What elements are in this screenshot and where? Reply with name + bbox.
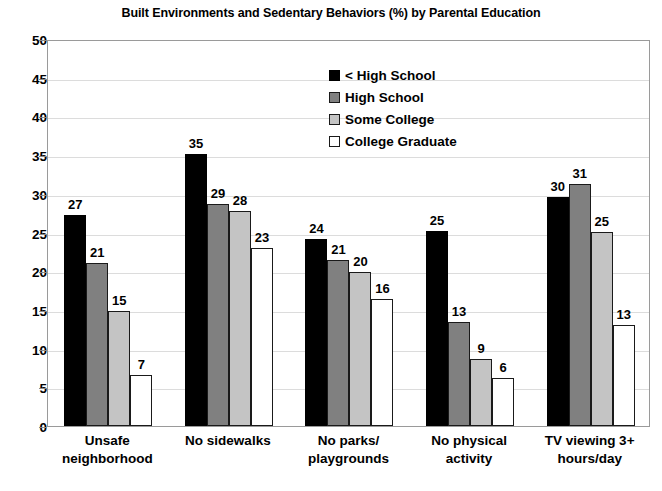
y-axis-tick-mark (39, 427, 47, 428)
bar[interactable] (426, 231, 448, 426)
bar[interactable] (470, 359, 492, 426)
bar[interactable] (613, 325, 635, 426)
bar-value-label: 24 (305, 221, 327, 236)
bar-value-label: 35 (185, 136, 207, 151)
bar-value-label: 25 (591, 214, 613, 229)
bar[interactable] (349, 272, 371, 426)
bar[interactable] (86, 263, 108, 426)
legend-swatch-icon (329, 92, 340, 103)
bar[interactable] (251, 248, 273, 426)
y-axis-tick-mark (39, 79, 47, 80)
category-label-line: hours/day (529, 450, 650, 468)
legend-item-label: High School (345, 90, 424, 105)
y-axis-tick-mark (39, 388, 47, 389)
bar-group: 2721157 (48, 41, 169, 426)
bar[interactable] (108, 311, 130, 426)
x-axis-category-label: TV viewing 3+hours/day (529, 432, 650, 468)
legend-item[interactable]: High School (329, 86, 457, 108)
chart-legend: < High SchoolHigh SchoolSome CollegeColl… (329, 64, 457, 152)
bar[interactable] (64, 215, 86, 426)
bar[interactable] (305, 239, 327, 426)
bar-value-label: 9 (470, 341, 492, 356)
y-axis-tick-mark (39, 40, 47, 41)
bar-value-label: 13 (448, 304, 470, 319)
bar[interactable] (327, 260, 349, 426)
bar-value-label: 16 (371, 281, 393, 296)
bar-value-label: 21 (86, 245, 108, 260)
category-label-line: neighborhood (47, 450, 168, 468)
bar[interactable] (229, 211, 251, 426)
legend-item[interactable]: < High School (329, 64, 457, 86)
y-axis-tick-mark (39, 350, 47, 351)
bar-value-label: 28 (229, 193, 251, 208)
bar-value-label: 27 (64, 197, 86, 212)
y-axis-tick-mark (39, 195, 47, 196)
chart-title: Built Environments and Sedentary Behavio… (0, 6, 662, 20)
category-label-line: TV viewing 3+ (529, 432, 650, 450)
legend-swatch-icon (329, 114, 340, 125)
bar-group: 30312513 (530, 41, 651, 426)
legend-item-label: College Graduate (345, 134, 457, 149)
y-axis-tick-mark (39, 117, 47, 118)
y-axis-tick-mark (39, 234, 47, 235)
legend-swatch-icon (329, 136, 340, 147)
bar-value-label: 15 (108, 293, 130, 308)
legend-item[interactable]: College Graduate (329, 130, 457, 152)
bar[interactable] (448, 322, 470, 426)
bar-group: 35292823 (169, 41, 290, 426)
bar-value-label: 20 (349, 254, 371, 269)
x-axis-category-label: No sidewalks (168, 432, 289, 450)
bar[interactable] (591, 232, 613, 426)
category-label-line: No parks/ (288, 432, 409, 450)
bar-value-label: 6 (492, 360, 514, 375)
legend-item-label: Some College (345, 112, 434, 127)
y-axis: 50454035302520151050 (0, 40, 47, 427)
y-axis-tick-mark (39, 272, 47, 273)
category-label-line: No physical (409, 432, 530, 450)
x-axis-category-label: No physicalactivity (409, 432, 530, 468)
bar[interactable] (207, 204, 229, 426)
x-axis-category-label: Unsafeneighborhood (47, 432, 168, 468)
y-axis-tick-mark (39, 156, 47, 157)
bar-value-label: 13 (613, 307, 635, 322)
category-label-line: activity (409, 450, 530, 468)
category-label-line: No sidewalks (168, 432, 289, 450)
bar[interactable] (569, 184, 591, 426)
bar[interactable] (185, 154, 207, 426)
bar-value-label: 30 (547, 179, 569, 194)
category-label-line: Unsafe (47, 432, 168, 450)
bar-value-label: 31 (569, 166, 591, 181)
legend-swatch-icon (329, 70, 340, 81)
bar[interactable] (130, 375, 152, 426)
bar-value-label: 23 (251, 230, 273, 245)
y-axis-tick-mark (39, 311, 47, 312)
bar[interactable] (492, 378, 514, 426)
bar-value-label: 25 (426, 213, 448, 228)
bar[interactable] (371, 299, 393, 426)
bar-value-label: 21 (327, 242, 349, 257)
bar-value-label: 29 (207, 186, 229, 201)
bar-value-label: 7 (130, 357, 152, 372)
category-label-line: playgrounds (288, 450, 409, 468)
x-axis-category-label: No parks/playgrounds (288, 432, 409, 468)
legend-item[interactable]: Some College (329, 108, 457, 130)
bar[interactable] (547, 197, 569, 426)
legend-item-label: < High School (345, 68, 435, 83)
chart-container: Built Environments and Sedentary Behavio… (0, 0, 662, 491)
